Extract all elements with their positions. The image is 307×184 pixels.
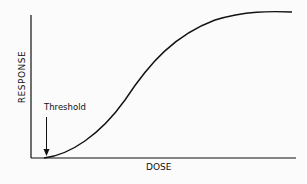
threshold-annotation: Threshold: [44, 102, 86, 112]
x-axis-label: DOSE: [146, 162, 171, 172]
chart-canvas: [0, 0, 307, 184]
dose-response-diagram: RESPONSE DOSE Threshold: [0, 0, 307, 184]
y-axis-label: RESPONSE: [17, 47, 27, 107]
response-curve: [44, 12, 292, 158]
arrow-head-icon: [44, 149, 50, 156]
